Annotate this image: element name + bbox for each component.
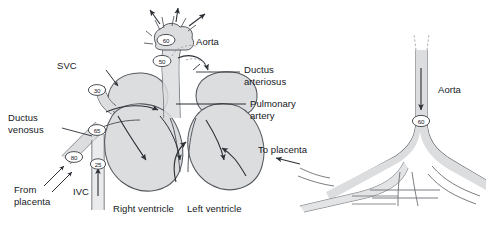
label-left-ventricle: Left ventricle xyxy=(187,203,242,214)
label-ductus-arteriosus-line2: arteriosus xyxy=(244,76,286,87)
marker-svc-value: 30 xyxy=(89,87,105,94)
marker-pulmonary-trunk-value: 50 xyxy=(154,58,170,65)
marker-aortic-arch-value: 60 xyxy=(158,37,174,44)
label-svc: SVC xyxy=(57,60,77,71)
label-ductus-arteriosus-line1: Ductus xyxy=(244,64,274,75)
label-ductus-venosus-line2: venosus xyxy=(8,124,44,135)
label-ductus-venosus-line1: Ductus xyxy=(8,112,38,123)
marker-ivc-value: 25 xyxy=(90,161,106,168)
label-to-placenta: To placenta xyxy=(258,144,307,155)
label-pulmonary-artery-line2: artery xyxy=(250,110,275,121)
label-ivc: IVC xyxy=(73,186,89,197)
label-aorta-left: Aorta xyxy=(196,36,219,47)
label-aorta-right: Aorta xyxy=(438,84,461,95)
marker-umbilical-vein-value: 80 xyxy=(66,154,82,161)
marker-ductus-venosus-entry-value: 65 xyxy=(89,127,105,134)
label-right-ventricle: Right ventricle xyxy=(113,203,174,214)
placenta-panel-artwork xyxy=(276,34,486,212)
fetal-circulation-figure: 60 50 30 65 80 25 60 SVC Aorta Ductus ar… xyxy=(0,0,486,235)
marker-descending-aorta-value: 60 xyxy=(413,118,429,125)
heart-body xyxy=(105,72,264,191)
label-from-placenta-line1: From xyxy=(14,184,36,195)
label-from-placenta-line2: placenta xyxy=(14,196,50,207)
label-pulmonary-artery-line1: Pulmonary xyxy=(250,98,296,109)
